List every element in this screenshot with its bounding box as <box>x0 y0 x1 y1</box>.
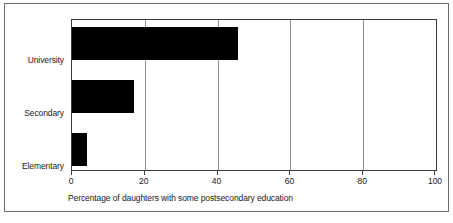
x-tick-label-40: 40 <box>212 176 221 186</box>
x-axis: 0 20 40 60 80 100 <box>71 171 437 191</box>
x-tick-label-20: 20 <box>139 176 148 186</box>
y-tick-label-secondary: Secondary <box>24 108 64 118</box>
x-tick-60 <box>289 171 290 175</box>
bar-elementary <box>72 133 87 166</box>
plot-area <box>71 19 437 171</box>
bar-secondary <box>72 80 134 113</box>
x-tick-label-80: 80 <box>357 176 366 186</box>
gridline-60 <box>290 20 291 170</box>
y-axis-labels: University Secondary Elementary <box>0 19 64 171</box>
x-tick-80 <box>362 171 363 175</box>
x-tick-100 <box>434 171 435 175</box>
x-tick-label-100: 100 <box>428 176 442 186</box>
x-tick-40 <box>217 171 218 175</box>
y-tick-label-university: University <box>28 55 64 65</box>
x-tick-label-0: 0 <box>69 176 74 186</box>
x-tick-label-60: 60 <box>285 176 294 186</box>
bar-university <box>72 27 238 60</box>
x-axis-title: Percentage of daughters with some postse… <box>68 193 293 203</box>
gridline-80 <box>363 20 364 170</box>
y-tick-label-elementary: Elementary <box>22 161 64 171</box>
x-tick-20 <box>144 171 145 175</box>
chart-figure: University Secondary Elementary 0 20 40 … <box>0 0 453 223</box>
x-tick-0 <box>71 171 72 175</box>
